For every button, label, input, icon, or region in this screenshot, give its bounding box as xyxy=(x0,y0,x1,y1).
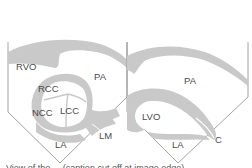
label-lm: LM xyxy=(99,130,112,141)
label-lcc: LCC xyxy=(60,105,79,116)
echo-diagram-figure: RVO PA RCC NCC LCC LM LA PA LVO LA C xyxy=(0,0,252,168)
left-panel-short-axis-view: RVO PA RCC NCC LCC LM LA xyxy=(8,40,127,163)
label-la-left: LA xyxy=(55,139,67,150)
label-c: C xyxy=(215,134,222,145)
label-rcc: RCC xyxy=(38,83,59,94)
label-la-right: LA xyxy=(172,139,184,150)
label-rvo: RVO xyxy=(16,61,36,72)
right-panel-long-axis-view: PA LVO LA C xyxy=(127,42,248,163)
label-ncc: NCC xyxy=(32,107,53,118)
label-lvo: LVO xyxy=(142,111,160,122)
diagram-canvas: RVO PA RCC NCC LCC LM LA PA LVO LA C xyxy=(0,0,252,168)
label-pa-left: PA xyxy=(94,71,107,82)
label-pa-right: PA xyxy=(184,75,197,86)
figure-caption: View of the ... (caption cut off at imag… xyxy=(6,162,252,168)
